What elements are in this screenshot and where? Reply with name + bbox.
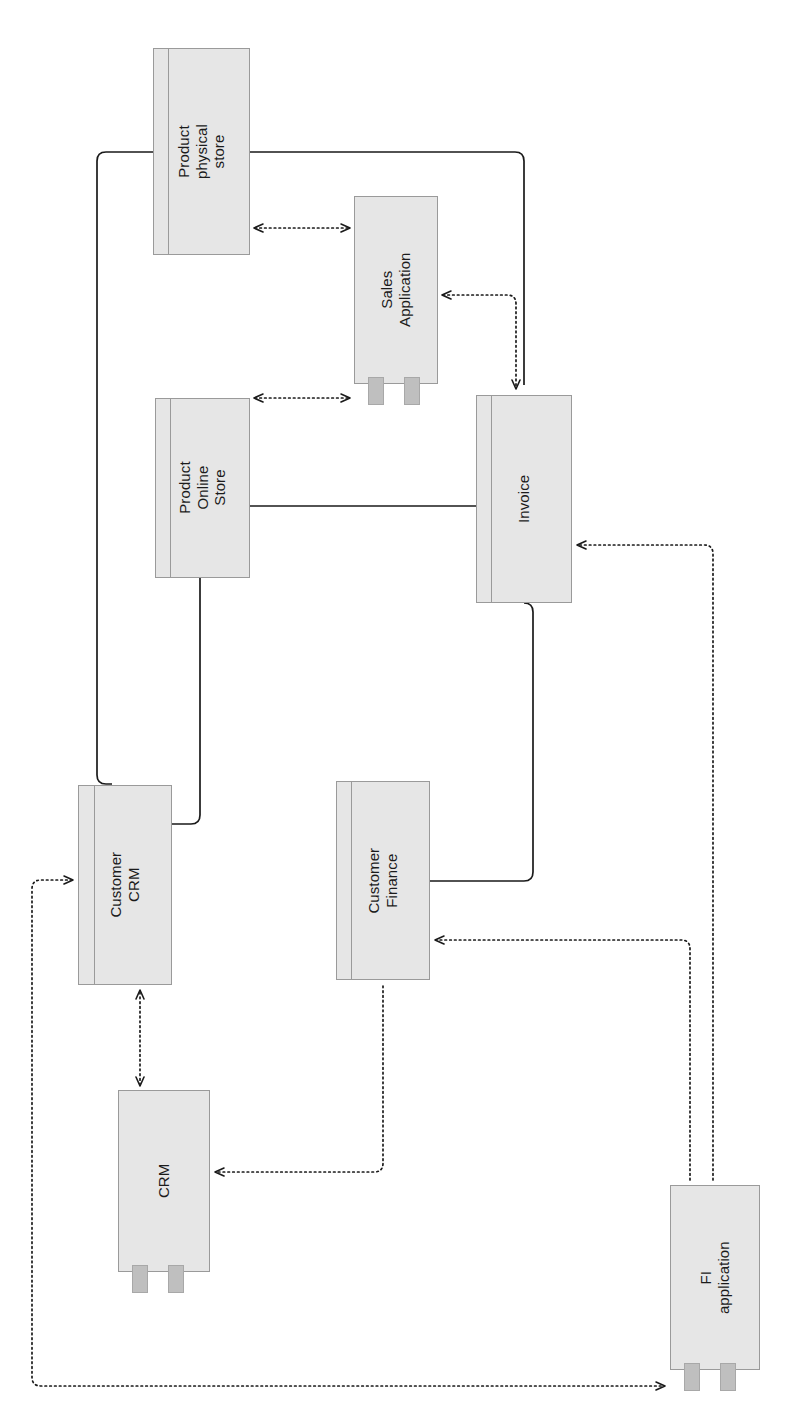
edge-customer-finance-crm xyxy=(216,986,383,1172)
component-tab-lower xyxy=(404,377,420,405)
node-sales-application[interactable]: Sales Application xyxy=(354,196,438,384)
node-label-wrap: Sales Application xyxy=(355,197,437,383)
node-product-physical-store[interactable]: Product physical store xyxy=(153,48,250,255)
diagram-canvas: Product physical store Sales Application… xyxy=(0,0,793,1428)
node-fi-application[interactable]: FI application xyxy=(670,1185,760,1370)
node-label-product-online-store: Product Online Store xyxy=(176,442,229,535)
node-label-wrap: Invoice xyxy=(477,396,571,602)
edge-physical-store-customer-crm xyxy=(97,152,153,784)
component-tab-lower xyxy=(720,1363,736,1391)
component-tab-lower xyxy=(168,1265,184,1293)
node-label-sales-application: Sales Application xyxy=(378,249,413,331)
component-tab-upper xyxy=(684,1363,700,1391)
node-label-wrap: Product physical store xyxy=(154,49,249,254)
node-product-online-store[interactable]: Product Online Store xyxy=(155,398,250,578)
node-label-product-physical-store: Product physical store xyxy=(175,104,228,199)
node-label-wrap: Customer CRM xyxy=(79,786,171,984)
node-label-invoice: Invoice xyxy=(515,475,533,523)
node-label-customer-finance: Customer Finance xyxy=(365,835,400,927)
edge-online-store-customer-crm xyxy=(172,578,200,824)
edge-fi-application-invoice xyxy=(578,545,713,1180)
edge-fi-application-customer-finance xyxy=(436,940,690,1180)
node-label-wrap: Product Online Store xyxy=(156,399,249,577)
node-label-crm: CRM xyxy=(155,1164,173,1198)
node-label-customer-crm: Customer CRM xyxy=(107,839,142,931)
node-label-wrap: Customer Finance xyxy=(337,782,429,979)
node-label-wrap: CRM xyxy=(119,1091,209,1271)
node-invoice[interactable]: Invoice xyxy=(476,395,572,603)
node-customer-finance[interactable]: Customer Finance xyxy=(336,781,430,980)
node-label-wrap: FI application xyxy=(671,1186,759,1369)
edge-customer-finance-invoice xyxy=(430,603,533,881)
node-label-fi-application: FI application xyxy=(697,1234,732,1322)
edge-sales-application-invoice xyxy=(443,295,516,388)
node-customer-crm[interactable]: Customer CRM xyxy=(78,785,172,985)
component-tab-upper xyxy=(368,377,384,405)
component-tab-upper xyxy=(132,1265,148,1293)
node-crm[interactable]: CRM xyxy=(118,1090,210,1272)
